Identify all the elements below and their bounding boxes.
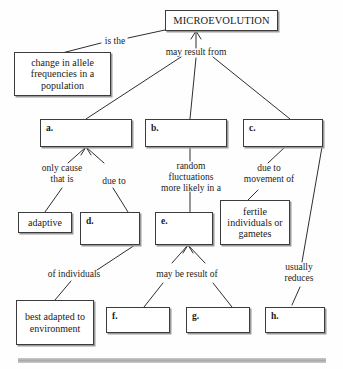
edge-ofindividuals-to-best	[55, 281, 71, 300]
edge-movement-to-fertile	[248, 190, 258, 200]
edge-e-branch-left	[172, 245, 188, 263]
edge-mayresult-arrow-right	[196, 31, 201, 39]
node-blank-c-letter: c.	[244, 120, 256, 134]
edge-mayresult-to-c	[213, 57, 290, 119]
node-microevolution-label: MICROEVOLUTION	[170, 15, 272, 27]
edge-mayberesult-to-f	[144, 283, 163, 307]
edge-c-to-movement	[268, 147, 285, 163]
node-blank-h: h.	[265, 307, 325, 333]
node-blank-c: c.	[243, 119, 323, 147]
node-blank-a: a.	[40, 119, 132, 147]
edge-dueto-to-d	[113, 188, 128, 212]
edge-a-branch-left	[68, 147, 86, 163]
edge-usually-to-h	[292, 287, 300, 305]
edge-micro-to-isthe	[128, 30, 165, 38]
node-blank-d-letter: d.	[81, 213, 94, 227]
edge-e-branch-right	[188, 245, 205, 263]
concept-map-diagram: MICROEVOLUTION change in allele frequenc…	[0, 0, 343, 369]
edge-mayresult-arrow-left	[191, 31, 196, 39]
node-blank-g: g.	[186, 307, 250, 333]
node-best-adapted-to-environment-label: best adapted to environment	[17, 311, 93, 333]
node-microevolution: MICROEVOLUTION	[165, 10, 278, 31]
edge-d-to-ofindividuals	[97, 245, 135, 270]
node-blank-e: e.	[155, 212, 213, 245]
node-blank-a-letter: a.	[41, 120, 53, 134]
node-fertile-individuals-or-gametes-label: fertile individuals or gametes	[221, 206, 289, 240]
bottom-divider-rule	[18, 358, 326, 363]
edge-a-branch-right	[86, 147, 104, 163]
node-blank-f-letter: f.	[107, 308, 118, 322]
edge-mayberesult-to-g	[213, 283, 232, 307]
node-best-adapted-to-environment: best adapted to environment	[16, 300, 94, 345]
node-blank-d: d.	[80, 212, 140, 245]
node-adaptive: adaptive	[18, 212, 72, 233]
node-change-in-allele-frequencies: change in allele frequencies in a popula…	[14, 52, 111, 96]
node-blank-b: b.	[145, 119, 227, 147]
edge-onlycause-to-adaptive	[45, 188, 62, 212]
node-blank-h-letter: h.	[266, 308, 279, 322]
node-blank-g-letter: g.	[187, 308, 199, 322]
node-blank-b-letter: b.	[146, 120, 159, 134]
edge-mayresult-to-b	[190, 58, 196, 119]
node-fertile-individuals-or-gametes: fertile individuals or gametes	[220, 200, 290, 245]
node-blank-f: f.	[106, 307, 170, 333]
edge-c-to-usually	[302, 147, 322, 262]
node-adaptive-label: adaptive	[25, 217, 65, 228]
node-blank-e-letter: e.	[156, 213, 168, 227]
edge-e-arrow-left	[183, 245, 188, 253]
node-change-in-allele-frequencies-label: change in allele frequencies in a popula…	[15, 57, 110, 91]
